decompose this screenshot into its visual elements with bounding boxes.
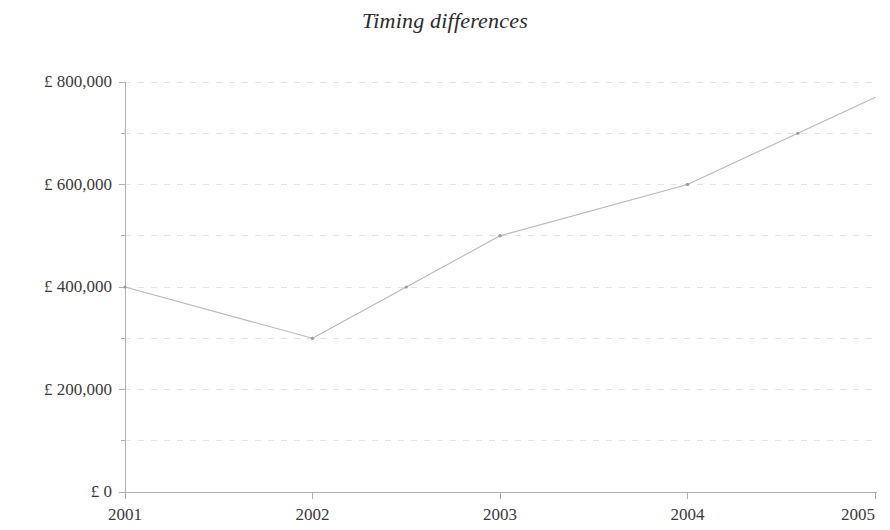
x-axis-tick-label: 2001 bbox=[108, 505, 142, 525]
x-axis-tick-label: 2003 bbox=[483, 505, 517, 525]
chart-container: Timing differences £ 800,000£ 600,000£ 4… bbox=[0, 0, 890, 530]
x-axis-tick-label: 2002 bbox=[296, 505, 330, 525]
x-axis-tick-label: 2004 bbox=[671, 505, 705, 525]
x-axis-tick-label: 2005 bbox=[841, 505, 875, 525]
x-axis-tick-labels: 20012002200320042005 bbox=[0, 0, 890, 530]
